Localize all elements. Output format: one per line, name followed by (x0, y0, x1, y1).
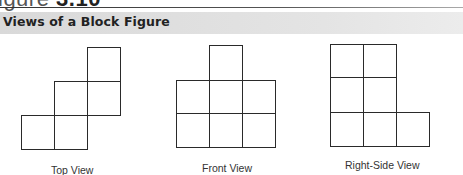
front-view-cell (176, 113, 210, 148)
top-view-cell (21, 115, 55, 150)
top-view-cell (87, 47, 121, 82)
right-side-view-cell (396, 112, 430, 147)
heading-rule (0, 7, 463, 8)
top-view-cell (87, 81, 121, 116)
front-view-caption: Front View (202, 162, 252, 174)
figure-title: Views of a Block Figure (3, 14, 170, 29)
top-view-caption: Top View (51, 164, 93, 175)
front-view-cell (242, 80, 276, 114)
top-view-cell (54, 81, 88, 116)
front-view-cell (209, 113, 243, 148)
front-view-cell (209, 80, 243, 114)
right-side-view-caption: Right-Side View (345, 159, 420, 171)
figure-label-prefix: igure (0, 0, 49, 11)
right-side-view-cell (363, 44, 397, 78)
right-side-view-cell (330, 112, 364, 147)
right-side-view-cell (363, 112, 397, 147)
right-side-view-cell (330, 44, 364, 78)
front-view-cell (176, 80, 210, 114)
front-view-cell (242, 113, 276, 148)
right-side-view-cell (363, 77, 397, 113)
top-view-cell (54, 115, 88, 150)
front-view-cell (209, 45, 243, 81)
figure-number-heading: igure 3.10 (0, 0, 101, 12)
figure-label-number: 3.10 (56, 0, 101, 11)
right-side-view-cell (330, 77, 364, 113)
